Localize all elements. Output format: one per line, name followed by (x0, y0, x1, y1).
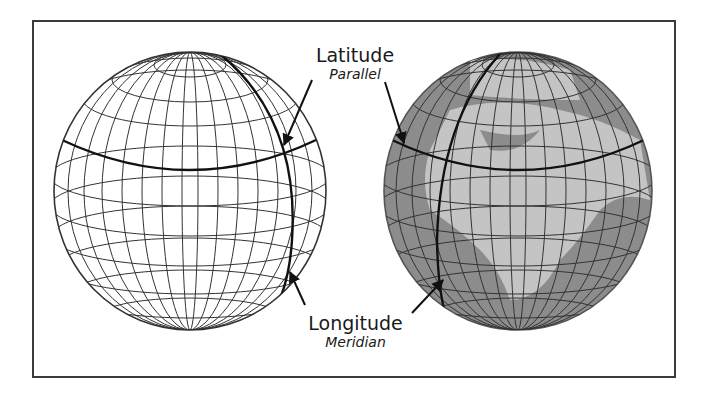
wireframe-globe (50, 52, 330, 334)
latitude-label: Latitude Parallel (300, 44, 410, 82)
longitude-synonym: Meridian (293, 334, 418, 350)
longitude-term: Longitude (293, 312, 418, 334)
longitude-label: Longitude Meridian (293, 312, 418, 350)
latitude-synonym: Parallel (300, 66, 410, 82)
latitude-term: Latitude (300, 44, 410, 66)
latitude-arrow-right (385, 82, 404, 143)
earth-globe (378, 52, 658, 334)
